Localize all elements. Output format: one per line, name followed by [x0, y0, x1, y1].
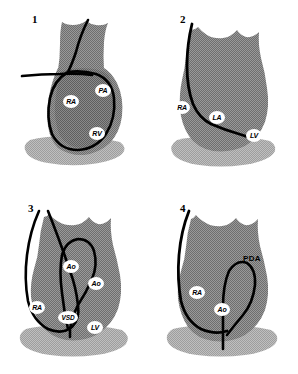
figure-root: 1 RA PA RV 2	[0, 0, 298, 374]
panel-4: 4 RA Ao PDA	[149, 187, 298, 374]
panel-1-number: 1	[32, 14, 38, 25]
panel-1-illustration	[0, 0, 149, 187]
panel-2-label-left-atrium: LA	[209, 111, 225, 124]
panel-3-illustration	[0, 187, 149, 374]
panel-3-label-aorta-upper: Ao	[63, 260, 79, 273]
panel-1-label-right-atrium: RA	[63, 95, 79, 108]
panel-3-label-ventricular-septal-defect: VSD	[58, 311, 78, 324]
panel-4-illustration	[149, 187, 298, 374]
panel-4-number: 4	[180, 203, 186, 214]
panel-3: 3 Ao Ao RA VSD LV	[0, 187, 149, 374]
panel-1-label-pulmonary-artery: PA	[95, 84, 111, 97]
panel-3-label-aorta-lower: Ao	[88, 277, 104, 290]
panel-4-label-right-atrium: RA	[189, 286, 205, 299]
panel-1: 1 RA PA RV	[0, 0, 149, 187]
panel-3-number: 3	[28, 203, 34, 214]
panel-4-label-aorta: Ao	[214, 303, 230, 316]
panel-2-illustration	[149, 0, 298, 187]
panel-2: 2 RA LA LV	[149, 0, 298, 187]
panel-4-label-patent-ductus-arteriosus: PDA	[243, 255, 261, 263]
panel-1-label-right-ventricle: RV	[89, 127, 105, 140]
panel-3-label-right-atrium: RA	[29, 301, 45, 314]
panel-3-label-left-ventricle: LV	[87, 321, 103, 334]
panel-2-number: 2	[180, 14, 186, 25]
panel-2-label-left-ventricle: LV	[246, 129, 262, 142]
panel-2-label-right-atrium: RA	[174, 101, 190, 114]
